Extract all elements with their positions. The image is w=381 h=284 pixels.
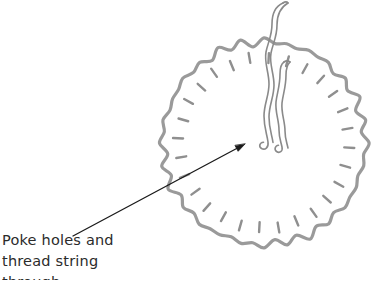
scalloped-fabric-disc — [159, 38, 369, 248]
stitch-dash — [278, 223, 280, 233]
caption-line-2: thread string — [2, 251, 182, 272]
stitch-dash — [343, 128, 353, 130]
caption-line-3: through — [2, 272, 182, 280]
scalloped-disc-group — [159, 38, 369, 248]
diagram-canvas: Poke holes and thread string through — [0, 0, 381, 284]
string-top-loop-cap — [283, 2, 288, 3]
caption-block: Poke holes and thread string through — [2, 230, 182, 280]
stitch-dash — [173, 138, 183, 139]
stitch-dash — [268, 53, 269, 63]
stitch-dash — [249, 53, 251, 63]
stitch-dash — [344, 147, 354, 148]
stitch-dash — [259, 222, 260, 232]
caption-line-1: Poke holes and — [2, 230, 182, 251]
stitch-dash — [176, 156, 186, 158]
